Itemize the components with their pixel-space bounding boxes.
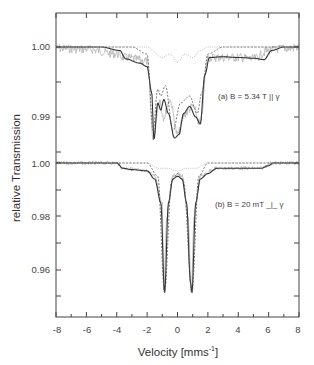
y-axis-label: relative Transmission [10, 114, 22, 222]
y-tick-b-3: 0.96 [32, 264, 51, 275]
x-tick-label: 0 [175, 324, 180, 335]
y-tick-a-2: 0.99 [32, 111, 51, 122]
x-tick-label: 8 [295, 324, 300, 335]
panel-b-annotation: (b) B = 20 mT _|_ γ [215, 200, 283, 209]
axis-ticks [56, 13, 299, 317]
series-b-subspectrum-1 [56, 163, 299, 293]
x-axis-label: Velocity [mms-1] [138, 345, 218, 358]
x-tick-labels: -8 -6 -4 -2 0 2 4 6 8 [53, 324, 301, 335]
x-tick-label: -2 [143, 324, 151, 335]
y-tick-b-1: 1.00 [32, 158, 51, 169]
series-b-total-fit [56, 163, 299, 292]
mossbauer-chart: 1.00 0.99 1.00 0.98 0.96 -8 -6 -4 -2 0 2… [0, 0, 314, 365]
series-b-measured-data [56, 161, 299, 293]
y-tick-a-1: 1.00 [32, 41, 51, 52]
x-tick-label: 2 [205, 324, 210, 335]
series-a-subspectrum-2 [56, 47, 299, 62]
plot-frame [56, 13, 299, 317]
plot-series [56, 44, 299, 293]
y-tick-b-2: 0.98 [32, 211, 51, 222]
panel-a-annotation: (a) B = 5.34 T || γ [218, 92, 279, 101]
x-tick-label: 6 [265, 324, 270, 335]
x-tick-label: -6 [83, 324, 91, 335]
x-tick-label: -8 [53, 324, 61, 335]
x-tick-label: 4 [235, 324, 240, 335]
x-tick-label: -4 [113, 324, 121, 335]
